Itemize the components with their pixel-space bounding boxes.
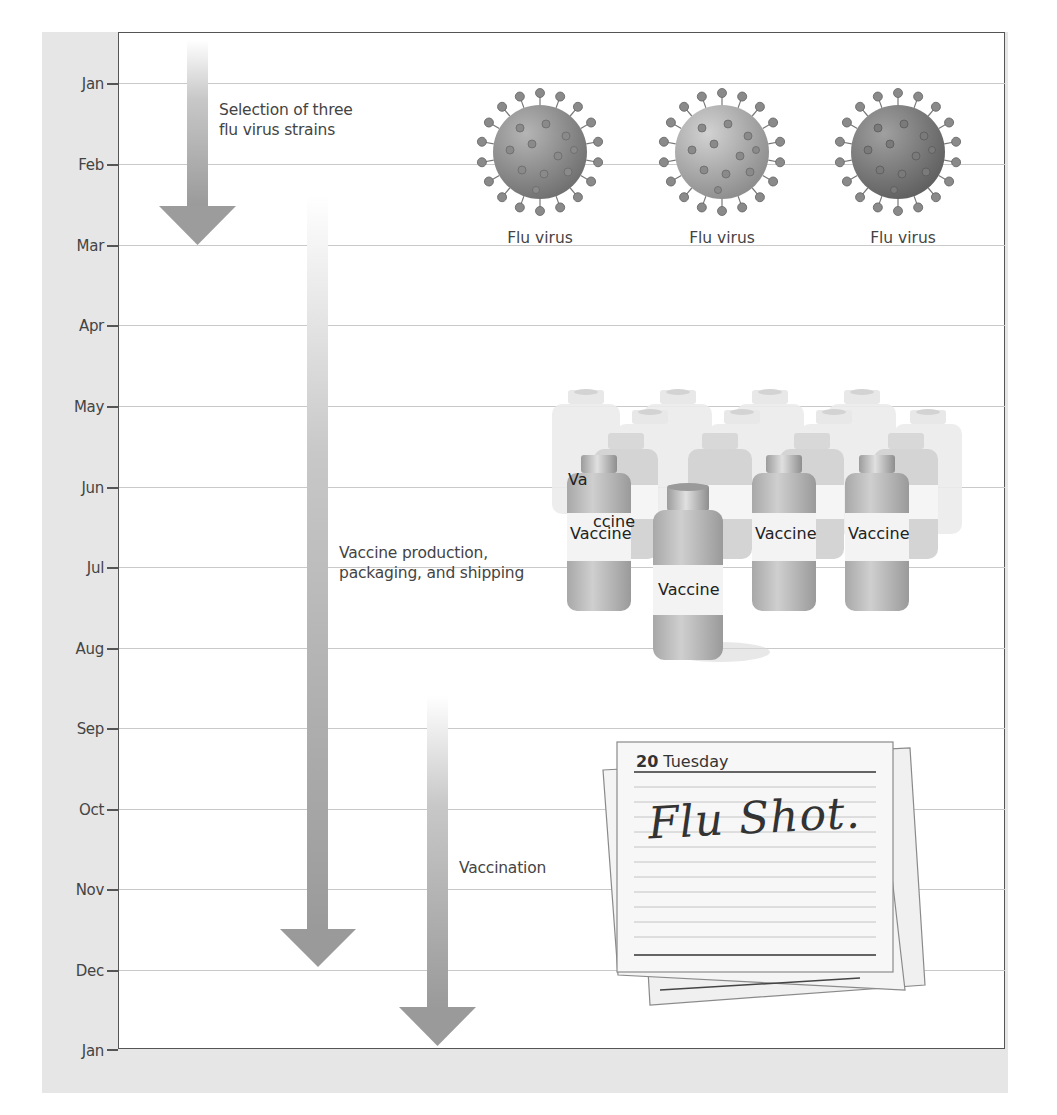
calendar-day-number: 20: [636, 752, 658, 771]
virus-label: Flu virus: [843, 229, 963, 247]
virus-label: Flu virus: [480, 229, 600, 247]
stage-label-line: flu virus strains: [219, 120, 353, 140]
selection-arrow: [159, 40, 236, 245]
vial-label: Vaccine: [755, 524, 817, 543]
stage-label-selection: Selection of three flu virus strains: [219, 100, 353, 140]
vial-label: Vaccine: [848, 524, 910, 543]
stage-label-line: Selection of three: [219, 100, 353, 120]
calendar-day-name: Tuesday: [663, 752, 728, 771]
virus-label: Flu virus: [662, 229, 782, 247]
flu-virus-3: [835, 89, 962, 216]
stage-label-production: Vaccine production, packaging, and shipp…: [339, 543, 524, 583]
flu-virus-2: [659, 89, 786, 216]
diagram-artwork: [0, 0, 1057, 1115]
stage-label-line: Vaccine production,: [339, 543, 524, 563]
calendar-notes: [603, 742, 925, 1005]
vial-label: Vaccine: [658, 580, 720, 599]
calendar-date: 20 Tuesday: [636, 752, 728, 771]
stage-label-line: packaging, and shipping: [339, 563, 524, 583]
vial-label-partial: Va: [568, 470, 588, 489]
vial-label-partial: ccine: [593, 512, 635, 531]
flu-virus-1: [477, 89, 604, 216]
stage-label-line: Vaccination: [459, 858, 546, 878]
stage-label-vaccination: Vaccination: [459, 858, 546, 878]
